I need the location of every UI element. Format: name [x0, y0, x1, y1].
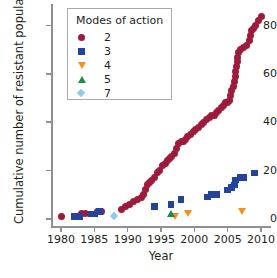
legend: Modes of action 23457: [67, 8, 172, 100]
data-point: [258, 13, 265, 20]
x-tick-1980: [60, 227, 62, 232]
resistance-scatter-chart: Cumulative number of resistant populatio…: [0, 0, 277, 278]
data-point: [214, 191, 221, 198]
legend-label-2: 2: [104, 31, 111, 44]
x-tick-1990: [127, 227, 129, 232]
triangle-down-icon: [78, 62, 86, 69]
x-tick-label-1985: 1985: [76, 234, 112, 246]
data-point: [58, 213, 65, 220]
data-point: [238, 208, 246, 215]
legend-item-4: 4: [78, 59, 158, 73]
triangle-up-icon: [78, 76, 86, 83]
data-point: [167, 210, 175, 217]
x-tick-2010: [260, 227, 262, 232]
x-tick-label-2000: 2000: [176, 234, 212, 246]
data-point: [110, 212, 118, 220]
legend-label-3: 3: [104, 45, 111, 58]
legend-label-4: 4: [104, 59, 111, 72]
x-axis-label: Year: [51, 250, 271, 262]
data-point: [184, 210, 192, 217]
x-tick-label-2010: 2010: [243, 234, 277, 246]
data-point: [178, 196, 185, 203]
legend-label-7: 7: [104, 87, 111, 100]
legend-item-5: 5: [78, 73, 158, 87]
legend-item-2: 2: [78, 31, 158, 45]
x-tick-1985: [94, 227, 96, 232]
legend-item-3: 3: [78, 45, 158, 59]
x-tick-label-1990: 1990: [110, 234, 146, 246]
x-tick-label-1995: 1995: [143, 234, 179, 246]
x-tick-2000: [194, 227, 196, 232]
circle-icon: [78, 34, 85, 41]
x-tick-1995: [160, 227, 162, 232]
data-point: [151, 203, 158, 210]
data-point: [240, 174, 247, 181]
data-point: [168, 201, 175, 208]
diamond-icon: [78, 90, 84, 96]
x-tick-label-2005: 2005: [210, 234, 246, 246]
data-point: [251, 170, 258, 177]
x-tick-2005: [227, 227, 229, 232]
legend-item-7: 7: [78, 87, 158, 101]
x-tick-label-1980: 1980: [43, 234, 79, 246]
data-point: [76, 213, 83, 220]
legend-label-5: 5: [104, 73, 111, 86]
y-axis-label: Cumulative number of resistant populatio…: [13, 2, 25, 224]
legend-title: Modes of action: [76, 15, 163, 27]
square-icon: [78, 48, 85, 55]
data-point: [96, 208, 103, 215]
